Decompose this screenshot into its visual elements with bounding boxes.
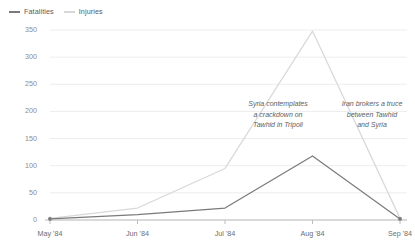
x-tick-label: May '84 (38, 230, 63, 237)
x-tick-label: Sep '84 (388, 230, 412, 237)
chart-annotation-syria-crackdown: Syria contemplates a crackdown on Tawhid… (236, 99, 320, 131)
chart-container: Fatalities Injuries 05010015020025030035… (0, 0, 415, 249)
x-tick-label: Jul '84 (215, 230, 236, 237)
chart-annotation-iran-truce: Iran brokers a truce between Tawhid and … (334, 99, 410, 131)
x-tick-label: Aug '84 (300, 230, 324, 237)
x-tick-label: Jun '84 (126, 230, 149, 237)
